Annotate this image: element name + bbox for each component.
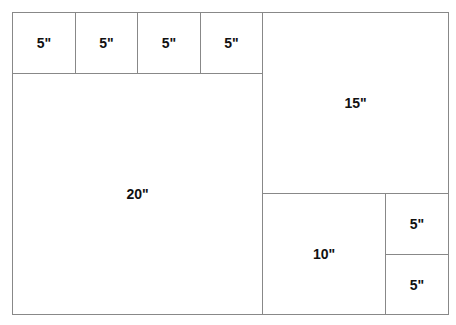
cell-5-2: 5" bbox=[75, 12, 138, 74]
cell-5-4: 5" bbox=[200, 12, 263, 74]
cell-15: 15" bbox=[262, 12, 449, 194]
cell-5-3: 5" bbox=[137, 12, 201, 74]
cell-5-1: 5" bbox=[12, 12, 76, 74]
cell-10: 10" bbox=[262, 193, 386, 315]
cell-5-6: 5" bbox=[385, 254, 449, 315]
cell-20: 20" bbox=[12, 73, 263, 315]
cell-5-5: 5" bbox=[385, 193, 449, 255]
